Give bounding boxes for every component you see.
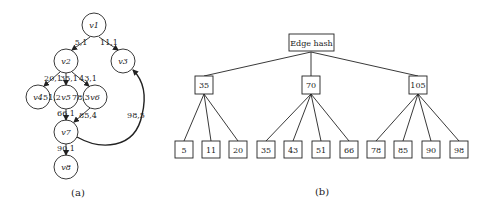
leaf-label: 11 — [206, 146, 216, 155]
tree-edge — [403, 94, 418, 141]
edge-label-v2-v6: 43,1 — [79, 74, 97, 83]
graph-a-labels: v1 v2 v3 v4 v5 v6 v7 v8 5,1 11,1 20,1 35… — [33, 21, 145, 198]
leaf-label: 35 — [261, 146, 271, 155]
leaf-label: 51 — [316, 146, 326, 155]
node-label-v7: v7 — [61, 128, 72, 137]
edge-label-v1-v2: 5,1 — [75, 38, 88, 47]
node-label-v2: v2 — [61, 57, 71, 66]
tree-edge-root-105 — [311, 52, 418, 76]
edge-label-v5-v6: 78,3 — [72, 93, 90, 102]
node-label-v8: v8 — [61, 163, 71, 172]
bucket-label-70: 70 — [306, 81, 316, 90]
tree-b-labels: Edge hash 35 70 105 5 11 20 35 43 51 66 … — [181, 39, 464, 198]
edge-label-v5-v7: 66,1 — [57, 109, 75, 118]
tree-edge — [376, 94, 418, 141]
edge-label-v1-v3: 11,1 — [100, 38, 118, 47]
tree-edge — [266, 94, 311, 141]
leaf-label: 5 — [181, 146, 186, 155]
caption-a: (a) — [71, 187, 85, 198]
edge-label-v7-v8: 90,1 — [57, 144, 75, 153]
node-label-v1: v1 — [89, 21, 99, 30]
caption-b: (b) — [315, 186, 329, 197]
leaf-label: 85 — [398, 146, 408, 155]
tree-edge — [184, 94, 204, 141]
leaf-label: 98 — [454, 146, 464, 155]
bucket-label-105: 105 — [410, 81, 425, 90]
tree-edge-root-35 — [204, 52, 311, 76]
tree-edge — [293, 94, 311, 141]
leaf-label: 43 — [288, 146, 298, 155]
leaf-label: 66 — [344, 146, 354, 155]
edge-label-v4-v5: 51,2 — [43, 93, 61, 102]
node-label-v3: v3 — [118, 57, 128, 66]
tree-b — [175, 34, 468, 158]
node-label-v6: v6 — [90, 93, 100, 102]
leaf-label: 90 — [426, 146, 436, 155]
edge-label-v2-v5: 35,1 — [60, 74, 78, 83]
root-label: Edge hash — [290, 39, 333, 48]
figure-canvas: v1 v2 v3 v4 v5 v6 v7 v8 5,1 11,1 20,1 35… — [0, 0, 494, 221]
bucket-label-35: 35 — [199, 81, 209, 90]
tree-edge — [204, 94, 211, 141]
node-label-v5: v5 — [61, 93, 71, 102]
leaf-label: 78 — [371, 146, 381, 155]
edge-label-v7-v3: 98,5 — [127, 111, 145, 120]
tree-edge — [311, 94, 321, 141]
tree-edge — [311, 94, 349, 141]
tree-edge — [204, 94, 238, 141]
edge-label-v6-v7: 85,4 — [79, 111, 97, 120]
leaf-label: 20 — [233, 146, 243, 155]
node-label-v4: v4 — [33, 93, 43, 102]
